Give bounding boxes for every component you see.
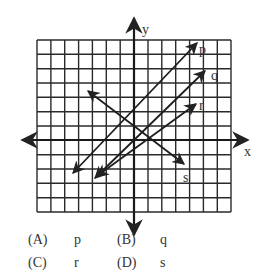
choice-c[interactable]: (C) r <box>28 255 108 273</box>
label-p: p <box>199 42 206 57</box>
choice-letter: (D) <box>117 255 136 271</box>
choice-value: p <box>74 232 81 248</box>
line-q <box>95 71 205 178</box>
label-q: q <box>211 68 218 83</box>
label-r: r <box>199 98 204 113</box>
choice-value: r <box>74 255 79 271</box>
choice-b[interactable]: (B) q <box>117 232 197 250</box>
choice-value: s <box>160 255 165 271</box>
x-axis-label: x <box>244 144 251 159</box>
choice-d[interactable]: (D) s <box>117 255 197 273</box>
choice-a[interactable]: (A) p <box>28 232 108 250</box>
choice-letter: (C) <box>28 255 47 271</box>
choice-letter: (A) <box>28 232 47 248</box>
label-s: s <box>183 170 188 185</box>
line-s <box>88 91 184 164</box>
choice-value: q <box>160 232 167 248</box>
y-axis-label: y <box>142 22 149 37</box>
choice-letter: (B) <box>117 232 136 248</box>
